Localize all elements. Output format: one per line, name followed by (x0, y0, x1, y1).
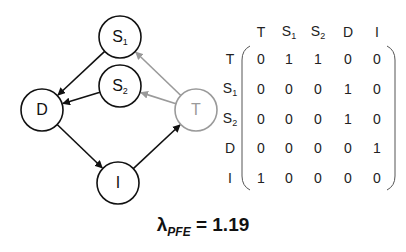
matrix-cell: 0 (314, 111, 322, 127)
matrix-cell: 1 (285, 51, 293, 67)
edge-d-to-i (57, 125, 102, 168)
matrix-cell: 1 (373, 140, 381, 156)
matrix-cell: 0 (373, 170, 381, 186)
matrix-cell: 1 (344, 111, 352, 127)
matrix-cell: 0 (373, 51, 381, 67)
node-label-i: I (116, 174, 120, 192)
lambda-subscript: PFE (167, 225, 190, 239)
row-header: I (228, 170, 232, 186)
matrix-cell: 1 (314, 51, 322, 67)
column-header: D (343, 24, 353, 40)
node-label-s1: S1 (112, 28, 128, 47)
edge-s2-to-d (63, 92, 100, 103)
row-header: S1 (223, 80, 237, 98)
matrix-cell: 0 (257, 140, 265, 156)
column-header: T (257, 24, 266, 40)
column-header: S2 (311, 23, 325, 41)
matrix-cell: 0 (285, 111, 293, 127)
row-header: S2 (223, 110, 237, 128)
lambda-symbol: λ (157, 214, 168, 235)
node-label-s2: S2 (112, 77, 128, 96)
matrix-cell: 0 (314, 81, 322, 97)
eigenvalue-equation: λPFE = 1.19 (157, 214, 250, 239)
column-header: S1 (282, 23, 296, 41)
row-header: D (225, 140, 235, 156)
matrix-cell: 0 (285, 140, 293, 156)
matrix-right-bracket (387, 46, 395, 190)
matrix-cell: 0 (373, 81, 381, 97)
matrix-cell: 0 (285, 170, 293, 186)
node-label-d: D (36, 101, 48, 119)
column-header: I (375, 24, 379, 40)
matrix-cell: 0 (257, 51, 265, 67)
matrix-cell: 0 (314, 170, 322, 186)
matrix-cell: 1 (257, 170, 265, 186)
matrix-left-bracket (242, 46, 250, 190)
matrix-cell: 0 (257, 111, 265, 127)
matrix-cell: 0 (344, 170, 352, 186)
matrix-cell: 0 (344, 140, 352, 156)
edge-i-to-t (133, 125, 180, 169)
node-label-t: T (191, 101, 201, 119)
edge-t-to-s1 (136, 52, 181, 95)
matrix-cell: 0 (314, 140, 322, 156)
edge-s1-to-d (58, 51, 105, 95)
row-header: T (226, 51, 235, 67)
matrix-cell: 1 (344, 81, 352, 97)
matrix-cell: 0 (257, 81, 265, 97)
matrix-cell: 0 (344, 51, 352, 67)
edge-t-to-s2 (141, 93, 176, 104)
matrix-cell: 0 (373, 111, 381, 127)
matrix-cell: 0 (285, 81, 293, 97)
equation-value: = 1.19 (191, 214, 250, 235)
